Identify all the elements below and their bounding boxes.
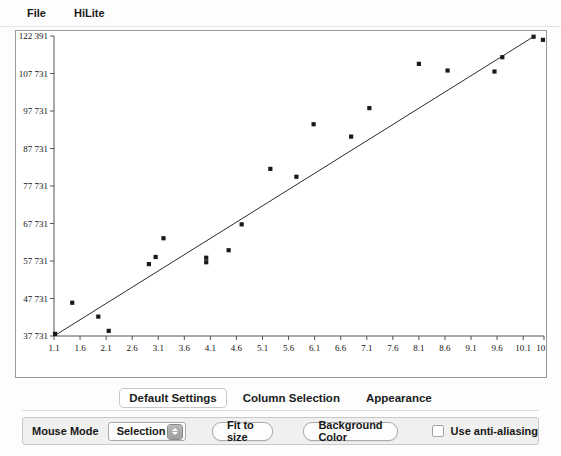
data-point[interactable] bbox=[294, 175, 298, 179]
background-color-button[interactable]: Background Color bbox=[303, 422, 397, 441]
x-tick-label: 8.1 bbox=[413, 343, 424, 353]
stepper-arrows-icon[interactable] bbox=[168, 425, 182, 439]
y-tick-label: 67 731 bbox=[23, 219, 48, 229]
data-point[interactable] bbox=[311, 122, 315, 126]
use-anti-aliasing-label: Use anti-aliasing bbox=[451, 425, 538, 437]
data-point[interactable] bbox=[268, 167, 272, 171]
data-point[interactable] bbox=[147, 262, 151, 266]
x-tick-label: 1.6 bbox=[74, 343, 86, 353]
data-point[interactable] bbox=[541, 38, 545, 42]
tab-column-selection[interactable]: Column Selection bbox=[234, 389, 349, 407]
x-tick-label: 7.6 bbox=[387, 343, 399, 353]
data-point[interactable] bbox=[154, 255, 158, 259]
data-point[interactable] bbox=[492, 69, 496, 73]
regression-line-layer bbox=[54, 36, 535, 336]
menu-bar: File HiLite bbox=[0, 0, 561, 27]
data-point[interactable] bbox=[96, 315, 100, 319]
data-point[interactable] bbox=[349, 135, 353, 139]
data-point[interactable] bbox=[70, 301, 74, 305]
x-tick-label: 3.1 bbox=[153, 343, 164, 353]
y-tick-label: 107 731 bbox=[19, 69, 48, 79]
x-tick-label: 4.6 bbox=[231, 343, 243, 353]
x-tick-label: 5.1 bbox=[257, 343, 268, 353]
scatter-plot-canvas[interactable]: 37 73147 73157 73167 73177 73187 73197 7… bbox=[16, 31, 546, 377]
x-tick-label: 6.6 bbox=[335, 343, 347, 353]
y-tick-label: 77 731 bbox=[23, 181, 48, 191]
tab-appearance[interactable]: Appearance bbox=[357, 389, 441, 407]
x-tick-label: 3.6 bbox=[179, 343, 191, 353]
x-tick-label: 2.6 bbox=[127, 343, 139, 353]
scatter-plot-window: File HiLite 37 73147 73157 73167 73177 7… bbox=[0, 0, 561, 456]
use-anti-aliasing-checkbox-wrap[interactable]: Use anti-aliasing bbox=[432, 425, 538, 437]
x-tick-label: 10.1 bbox=[515, 343, 531, 353]
menu-item-hilite[interactable]: HiLite bbox=[65, 5, 114, 21]
data-point[interactable] bbox=[500, 55, 504, 59]
y-tick-label: 87 731 bbox=[23, 144, 48, 154]
y-tick-label: 37 731 bbox=[23, 331, 48, 341]
x-tick-label: 1.1 bbox=[48, 343, 59, 353]
y-tick-label: 47 731 bbox=[23, 294, 48, 304]
x-tick-label: 2.1 bbox=[101, 343, 112, 353]
use-anti-aliasing-checkbox[interactable] bbox=[432, 425, 444, 437]
y-tick-label: 122 391 bbox=[19, 31, 48, 41]
control-bar: Mouse Mode Selection Fit to size Backgro… bbox=[22, 417, 539, 445]
data-point[interactable] bbox=[445, 68, 449, 72]
regression-line bbox=[54, 36, 535, 336]
fit-to-size-button[interactable]: Fit to size bbox=[212, 422, 273, 441]
mouse-mode-label: Mouse Mode bbox=[32, 425, 99, 437]
data-point[interactable] bbox=[107, 329, 111, 333]
data-point[interactable] bbox=[53, 332, 57, 336]
y-axis-tick-labels: 37 73147 73157 73167 73177 73187 73197 7… bbox=[19, 31, 48, 341]
y-tick-label: 97 731 bbox=[23, 106, 48, 116]
y-tick-label: 57 731 bbox=[23, 256, 48, 266]
plot-panel[interactable]: 37 73147 73157 73167 73177 73187 73197 7… bbox=[15, 30, 547, 378]
x-tick-label: 9.6 bbox=[491, 343, 503, 353]
mouse-mode-value: Selection bbox=[117, 425, 166, 437]
tab-strip: Default Settings Column Selection Appear… bbox=[0, 385, 561, 411]
axis-layer bbox=[50, 36, 544, 340]
data-point[interactable] bbox=[204, 256, 208, 260]
tab-default-settings[interactable]: Default Settings bbox=[120, 389, 226, 407]
x-tick-label: 9.1 bbox=[465, 343, 476, 353]
data-point[interactable] bbox=[367, 106, 371, 110]
x-tick-label: 7.1 bbox=[361, 343, 372, 353]
data-point[interactable] bbox=[531, 35, 535, 39]
x-tick-label: 8.6 bbox=[439, 343, 451, 353]
x-tick-label: 5.6 bbox=[283, 343, 295, 353]
x-tick-label: 4.1 bbox=[205, 343, 216, 353]
menu-item-file[interactable]: File bbox=[18, 5, 55, 21]
mouse-mode-select[interactable]: Selection bbox=[108, 422, 186, 441]
data-point[interactable] bbox=[204, 260, 208, 264]
data-point[interactable] bbox=[227, 248, 231, 252]
data-point[interactable] bbox=[417, 62, 421, 66]
x-tick-label: 10.5 bbox=[536, 343, 546, 353]
x-axis-tick-labels: 1.11.62.12.63.13.64.14.65.15.66.16.67.17… bbox=[48, 343, 546, 353]
data-point[interactable] bbox=[161, 236, 165, 240]
x-tick-label: 6.1 bbox=[309, 343, 320, 353]
data-point[interactable] bbox=[240, 222, 244, 226]
